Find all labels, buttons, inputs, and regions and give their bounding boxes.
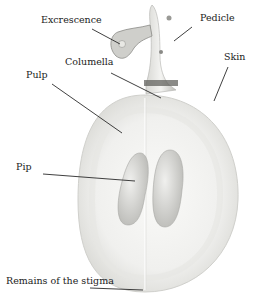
- label-pulp: Pulp: [26, 70, 48, 80]
- label-remains-of-the-stigma: Remains of the stigma: [6, 276, 114, 286]
- grape-illustration: [0, 0, 271, 299]
- label-skin: Skin: [224, 52, 245, 62]
- label-excrescence: Excrescence: [41, 15, 102, 25]
- grape-diagram: Excrescence Pedicle Columella Skin Pulp …: [0, 0, 271, 299]
- label-pip: Pip: [16, 162, 32, 172]
- label-pedicle: Pedicle: [200, 13, 235, 23]
- pedicle: [111, 5, 178, 94]
- label-columella: Columella: [65, 57, 114, 67]
